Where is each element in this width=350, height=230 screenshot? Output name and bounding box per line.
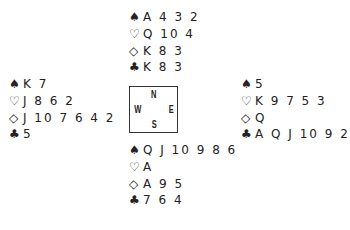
north-clubs-row: ♣ K 8 3	[129, 59, 200, 76]
east-clubs-row: ♣ A Q J 10 9 2	[241, 126, 350, 143]
west-diamonds-row: ◇ J 10 7 6 4 2	[9, 110, 115, 127]
west-clubs-row: ♣ 5	[9, 126, 115, 143]
south-hearts-row: ♡ A	[129, 159, 237, 176]
west-diamonds: J 10 7 6 4 2	[23, 110, 115, 127]
club-icon: ♣	[129, 192, 143, 209]
east-hearts-row: ♡ K 9 7 5 3	[241, 93, 350, 110]
north-clubs: K 8 3	[143, 59, 184, 76]
north-hearts: Q 10 4	[143, 26, 195, 43]
heart-icon: ♡	[241, 93, 255, 110]
compass-south: S	[152, 119, 157, 130]
west-clubs: 5	[23, 126, 33, 143]
east-spades: 5	[255, 76, 265, 93]
club-icon: ♣	[9, 126, 23, 143]
east-hearts: K 9 7 5 3	[255, 93, 327, 110]
heart-icon: ♡	[129, 159, 143, 176]
diamond-icon: ◇	[241, 110, 255, 127]
south-diamonds: A 9 5	[143, 176, 184, 193]
south-hearts: A	[143, 159, 153, 176]
heart-icon: ♡	[9, 93, 23, 110]
east-clubs: A Q J 10 9 2	[255, 126, 350, 143]
north-diamonds: K 8 3	[143, 43, 184, 60]
west-hearts-row: ♡ J 8 6 2	[9, 93, 115, 110]
north-spades-row: ♠ A 4 3 2	[129, 9, 200, 26]
west-hearts: J 8 6 2	[23, 93, 75, 110]
east-diamonds-row: ◇ Q	[241, 110, 350, 127]
south-spades: Q J 10 9 8 6	[143, 142, 237, 159]
south-spades-row: ♠ Q J 10 9 8 6	[129, 142, 237, 159]
heart-icon: ♡	[129, 26, 143, 43]
spade-icon: ♠	[9, 76, 23, 93]
compass-box: N W E S	[129, 86, 178, 133]
east-diamonds: Q	[255, 110, 266, 127]
diamond-icon: ◇	[129, 176, 143, 193]
west-spades: K 7	[23, 76, 48, 93]
south-clubs-row: ♣ 7 6 4	[129, 192, 237, 209]
club-icon: ♣	[241, 126, 255, 143]
diamond-icon: ◇	[9, 110, 23, 127]
compass-east: E	[169, 104, 174, 115]
north-spades: A 4 3 2	[143, 9, 200, 26]
west-spades-row: ♠ K 7	[9, 76, 115, 93]
compass-north: N	[151, 89, 156, 100]
spade-icon: ♠	[129, 142, 143, 159]
south-clubs: 7 6 4	[143, 192, 184, 209]
east-spades-row: ♠ 5	[241, 76, 350, 93]
club-icon: ♣	[129, 59, 143, 76]
diamond-icon: ◇	[129, 43, 143, 60]
north-hearts-row: ♡ Q 10 4	[129, 26, 200, 43]
east-hand: ♠ 5 ♡ K 9 7 5 3 ◇ Q ♣ A Q J 10 9 2	[241, 76, 350, 143]
north-hand: ♠ A 4 3 2 ♡ Q 10 4 ◇ K 8 3 ♣ K 8 3	[129, 9, 200, 76]
west-hand: ♠ K 7 ♡ J 8 6 2 ◇ J 10 7 6 4 2 ♣ 5	[9, 76, 115, 143]
south-diamonds-row: ◇ A 9 5	[129, 176, 237, 193]
spade-icon: ♠	[129, 9, 143, 26]
spade-icon: ♠	[241, 76, 255, 93]
compass-west: W	[134, 104, 141, 115]
south-hand: ♠ Q J 10 9 8 6 ♡ A ◇ A 9 5 ♣ 7 6 4	[129, 142, 237, 209]
north-diamonds-row: ◇ K 8 3	[129, 43, 200, 60]
